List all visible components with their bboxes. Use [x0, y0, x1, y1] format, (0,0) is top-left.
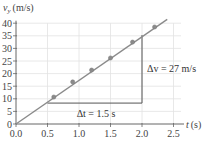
x-tick-label: 1.5 [104, 128, 117, 139]
y-tick-label: 20 [2, 68, 12, 79]
x-axis-title-main: t [186, 119, 189, 130]
delta-v-label: Δv = 27 m/s [147, 63, 196, 74]
y-tick-label: 15 [2, 81, 12, 92]
y-axis-title-sub: y [6, 7, 11, 15]
data-point [108, 56, 112, 60]
x-tick-label: 2.5 [167, 128, 180, 139]
y-axis-title: vy(m/s) [3, 2, 34, 15]
x-tick-label: 0.0 [10, 128, 23, 139]
x-axis-title: t(s) [186, 119, 201, 131]
data-point [130, 40, 134, 44]
y-tick-label: 40 [2, 18, 12, 29]
data-point [52, 95, 56, 99]
data-point [153, 25, 157, 29]
delta-t-label: Δt = 1.5 s [77, 108, 116, 119]
y-axis-title-unit: (m/s) [13, 2, 34, 14]
x-tick-label: 2.0 [136, 128, 149, 139]
x-axis-title-unit: (s) [191, 119, 202, 131]
y-tick-label: 30 [2, 43, 12, 54]
data-point [90, 68, 94, 72]
y-tick-label: 25 [2, 56, 12, 67]
y-tick-label: 5 [7, 106, 12, 117]
velocity-time-chart: 05101520253035400.00.51.01.52.02.5 vy(m/… [0, 0, 210, 144]
x-tick-label: 1.0 [73, 128, 86, 139]
data-point [71, 80, 75, 84]
y-tick-label: 35 [2, 30, 12, 41]
y-tick-label: 10 [2, 93, 12, 104]
x-tick-label: 0.5 [41, 128, 54, 139]
